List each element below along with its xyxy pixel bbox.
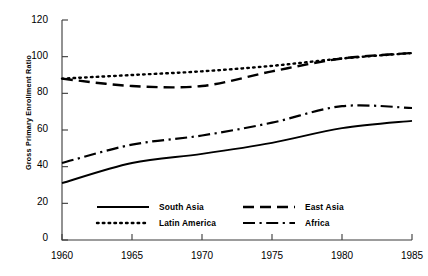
data-line-east-asia (62, 53, 412, 87)
data-series-group (62, 53, 412, 183)
data-line-africa (62, 105, 412, 163)
chart-plot-area (0, 0, 428, 276)
legend-sample-lines (97, 207, 295, 223)
data-line-south-asia (62, 121, 412, 183)
data-line-latin-america (62, 53, 412, 79)
chart-figure: Gross Primary Enrollment Ratio 120 100 8… (0, 0, 428, 276)
